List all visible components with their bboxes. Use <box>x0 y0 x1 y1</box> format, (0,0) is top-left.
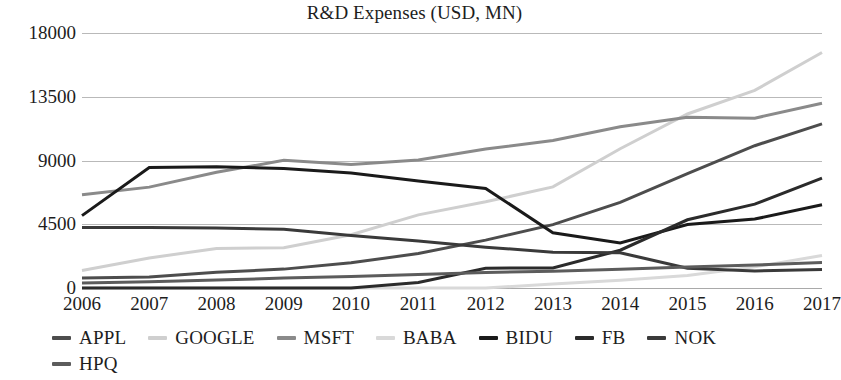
series-line-google <box>82 52 822 270</box>
y-axis: 0450090001350018000 <box>0 33 76 288</box>
x-axis-tick-label: 2011 <box>400 292 437 315</box>
legend-label: APPL <box>79 327 126 349</box>
legend-item-appl[interactable]: APPL <box>52 327 126 349</box>
x-axis-tick-label: 2014 <box>601 292 639 315</box>
legend-swatch-icon <box>52 336 71 340</box>
legend-swatch-icon <box>376 336 395 340</box>
legend-item-bidu[interactable]: BIDU <box>479 327 553 349</box>
legend-item-msft[interactable]: MSFT <box>277 327 354 349</box>
legend-swatch-icon <box>647 336 666 340</box>
legend-swatch-icon <box>148 336 167 340</box>
x-axis-tick-label: 2016 <box>736 292 774 315</box>
legend-label: FB <box>602 327 626 349</box>
series-layer <box>82 33 822 288</box>
series-line-appl <box>82 124 822 278</box>
y-axis-tick-label: 4500 <box>6 214 76 233</box>
series-line-nok <box>82 227 822 271</box>
legend-label: BIDU <box>506 327 553 349</box>
x-axis-tick-label: 2015 <box>668 292 706 315</box>
y-axis-tick-label: 18000 <box>6 23 76 42</box>
legend-row-secondary: HPQ <box>52 351 822 377</box>
y-axis-tick-label: 13500 <box>6 87 76 106</box>
legend-row-primary: APPLGOOGLEMSFTBABABIDUFBNOK <box>52 325 822 351</box>
legend-label: GOOGLE <box>175 327 254 349</box>
legend-label: BABA <box>403 327 457 349</box>
x-axis-tick-label: 2013 <box>534 292 572 315</box>
series-line-msft <box>82 103 822 194</box>
legend-swatch-icon <box>52 362 71 366</box>
chart-legend: APPLGOOGLEMSFTBABABIDUFBNOK HPQ <box>52 325 822 377</box>
x-axis-tick-label: 2006 <box>63 292 101 315</box>
x-axis-tick-label: 2012 <box>467 292 505 315</box>
legend-item-hpq[interactable]: HPQ <box>52 353 118 375</box>
legend-swatch-icon <box>277 336 296 340</box>
x-axis-tick-label: 2009 <box>265 292 303 315</box>
legend-swatch-icon <box>479 336 498 340</box>
x-axis: 2006200720082009201020112012201320142015… <box>82 292 822 318</box>
plot-area <box>82 33 822 288</box>
legend-label: NOK <box>674 327 716 349</box>
legend-item-fb[interactable]: FB <box>575 327 626 349</box>
x-axis-tick-label: 2010 <box>332 292 370 315</box>
x-axis-tick-label: 2007 <box>130 292 168 315</box>
chart-title: R&D Expenses (USD, MN) <box>0 2 829 24</box>
legend-item-nok[interactable]: NOK <box>647 327 716 349</box>
series-line-baba <box>82 255 822 288</box>
legend-item-baba[interactable]: BABA <box>376 327 457 349</box>
legend-item-google[interactable]: GOOGLE <box>148 327 254 349</box>
legend-label: MSFT <box>304 327 354 349</box>
x-axis-tick-label: 2008 <box>198 292 236 315</box>
legend-label: HPQ <box>79 353 118 375</box>
legend-swatch-icon <box>575 336 594 340</box>
y-axis-tick-label: 9000 <box>6 151 76 170</box>
x-axis-tick-label: 2017 <box>803 292 841 315</box>
